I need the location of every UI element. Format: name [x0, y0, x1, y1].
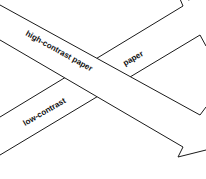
- crossing-arrows-diagram: high-contrast paper low-contrast paper: [0, 0, 206, 179]
